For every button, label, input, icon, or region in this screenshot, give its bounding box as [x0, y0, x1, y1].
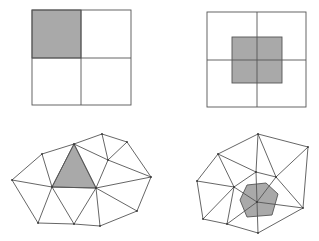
mesh-edge [100, 211, 137, 226]
mesh-edge [258, 134, 308, 147]
mesh-vertex [37, 222, 39, 224]
mesh-edge [137, 177, 151, 211]
mesh-vertex [275, 176, 277, 178]
mesh-edge [74, 188, 96, 224]
mesh-edge [96, 188, 100, 226]
mesh-edge [197, 181, 203, 219]
mesh-edge [52, 187, 74, 224]
mesh-vertex [226, 223, 228, 225]
cell-centered-triangle-mesh [11, 133, 152, 227]
mesh-edge [303, 147, 308, 208]
mesh-edge [38, 187, 52, 223]
vertex-centered-triangle-mesh [196, 133, 309, 234]
mesh-edge [127, 142, 151, 177]
mesh-vertex [257, 133, 259, 135]
mesh-edge [12, 180, 38, 223]
mesh-edge [102, 134, 108, 160]
mesh-edge [276, 147, 308, 177]
mesh-vertex [233, 186, 235, 188]
mesh-vertex [99, 225, 101, 227]
mesh-edge [38, 223, 74, 224]
mesh-vertex [202, 218, 204, 220]
mesh-edge [108, 160, 151, 177]
mesh-edge [108, 142, 127, 160]
mesh-edge [256, 172, 276, 177]
mesh-edge [74, 224, 100, 226]
mesh-vertex [136, 210, 138, 212]
mesh-edge [74, 134, 102, 144]
mesh-vertex [51, 186, 53, 188]
mesh-edge [203, 219, 227, 224]
mesh-vertex [307, 146, 309, 148]
mesh-vertex [126, 141, 128, 143]
mesh-edge [203, 187, 234, 219]
mesh-vertex [255, 171, 257, 173]
mesh-edge [96, 188, 137, 211]
mesh-edge [42, 154, 52, 187]
mesh-vertex [73, 223, 75, 225]
mesh-edge [227, 224, 258, 233]
mesh-edge [197, 181, 234, 187]
mesh-edge [96, 160, 108, 188]
mesh-vertex [150, 176, 152, 178]
shaded-control-volume [52, 144, 96, 188]
mesh-edge [102, 134, 127, 142]
mesh-edge [218, 154, 256, 172]
mesh-comparison-diagram [0, 0, 319, 241]
mesh-edge [12, 154, 42, 180]
mesh-vertex [107, 159, 109, 161]
mesh-vertex [101, 133, 103, 135]
mesh-vertex [73, 143, 75, 145]
mesh-vertex [196, 180, 198, 182]
mesh-vertex [95, 187, 97, 189]
mesh-vertex [302, 207, 304, 209]
mesh-vertex [217, 153, 219, 155]
mesh-vertex [11, 179, 13, 181]
mesh-edge [276, 177, 303, 208]
shaded-control-volume [32, 10, 81, 58]
cell-centered-square-grid [32, 10, 131, 105]
mesh-edge [256, 134, 258, 172]
mesh-edge [12, 180, 52, 187]
mesh-vertex [257, 232, 259, 234]
mesh-edge [96, 177, 151, 188]
mesh-vertex [256, 201, 258, 203]
vertex-centered-square-grid [207, 12, 306, 107]
mesh-edge [218, 154, 234, 187]
mesh-edge [197, 154, 218, 181]
mesh-edge [258, 134, 276, 177]
mesh-vertex [41, 153, 43, 155]
mesh-edge [218, 134, 258, 154]
